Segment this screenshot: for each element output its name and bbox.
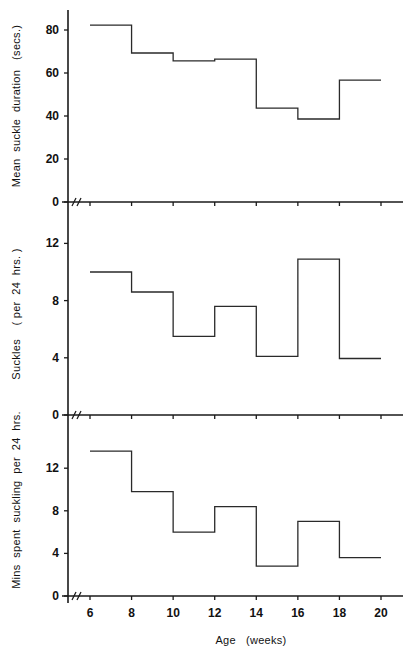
y-axis-title: Mins spent suckling per 24 hrs. xyxy=(10,411,22,589)
y-tick-label: 12 xyxy=(46,236,60,250)
y-tick-label: 0 xyxy=(52,195,59,209)
panel-mins-suckling-per-24hrs: 04812Mins spent suckling per 24 hrs. xyxy=(10,411,403,603)
step-series-line xyxy=(90,259,381,358)
panel-mean-suckle-duration: 020406080Mean suckle duration (secs.) xyxy=(10,23,403,209)
x-axis-title: Age (weeks) xyxy=(215,634,286,646)
y-tick-label: 12 xyxy=(46,461,60,475)
y-tick-label: 8 xyxy=(52,504,59,518)
y-tick-label: 80 xyxy=(46,23,60,37)
x-tick-label: 18 xyxy=(333,606,347,620)
y-tick-label: 60 xyxy=(46,66,60,80)
x-tick-label: 20 xyxy=(374,606,388,620)
step-series-line xyxy=(90,451,381,566)
x-tick-label: 8 xyxy=(128,606,135,620)
y-tick-label: 8 xyxy=(52,294,59,308)
x-tick-label: 16 xyxy=(291,606,305,620)
y-tick-label: 40 xyxy=(46,109,60,123)
y-tick-label: 4 xyxy=(52,546,59,560)
x-tick-label: 14 xyxy=(250,606,264,620)
step-series-line xyxy=(90,25,381,119)
x-tick-labels: 68101214161820 xyxy=(87,606,388,620)
y-tick-label: 4 xyxy=(52,351,59,365)
panel-suckles-per-24hrs: 04812Suckles ( per 24 hrs. ) xyxy=(10,236,403,422)
y-axis-title: Mean suckle duration (secs.) xyxy=(10,25,22,187)
x-tick-label: 6 xyxy=(87,606,94,620)
y-tick-label: 0 xyxy=(52,408,59,422)
y-tick-label: 20 xyxy=(46,152,60,166)
y-axis-title: Suckles ( per 24 hrs. ) xyxy=(10,248,22,379)
y-tick-label: 0 xyxy=(52,589,59,603)
suckling-behaviour-chart: 020406080Mean suckle duration (secs.) 04… xyxy=(0,0,417,651)
x-tick-label: 12 xyxy=(208,606,222,620)
x-tick-label: 10 xyxy=(166,606,180,620)
